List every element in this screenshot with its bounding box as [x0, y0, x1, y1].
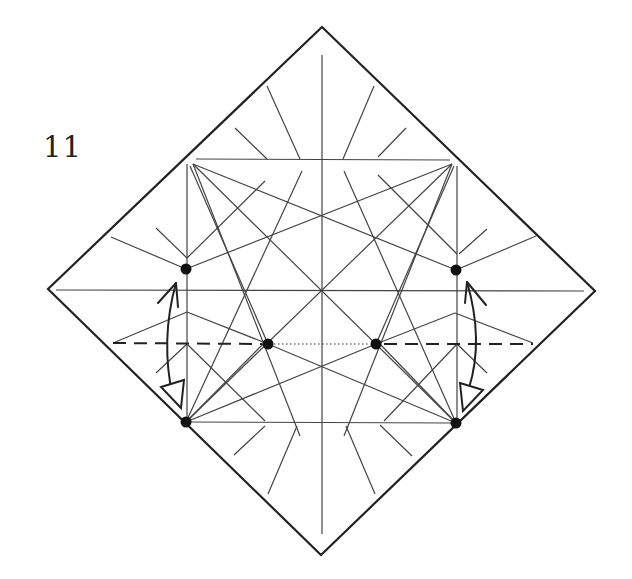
left-fold-arrow [158, 283, 184, 408]
right-arrow-curve [467, 282, 476, 388]
ll-v-1 [156, 344, 187, 373]
fan-bl-1 [186, 344, 376, 422]
bottom-radial-1 [234, 426, 265, 455]
bottom-radial-4 [380, 425, 412, 456]
horizontal-center-crease [56, 290, 584, 291]
fan-tr-1 [186, 164, 452, 269]
diagonal-tl-br [193, 164, 456, 423]
fan-br-2 [344, 171, 456, 423]
lower-right-tri-2 [455, 313, 533, 343]
fan-br-1 [268, 344, 456, 423]
valley-fold [113, 343, 533, 344]
ur-v-1 [459, 229, 487, 254]
top-radial-2 [235, 128, 267, 159]
left-arrow-curve [167, 283, 176, 398]
ul-v-1 [156, 228, 187, 258]
right-arrow-hollow-head [460, 383, 483, 411]
dot-lower-left [181, 417, 192, 428]
inner-square-bottom [188, 422, 454, 423]
fan-tr-2 [344, 164, 452, 436]
diagonal-tr-bl [186, 164, 452, 422]
lower-left-tri-1 [113, 312, 187, 343]
dot-upper-right [451, 265, 462, 276]
valley-fold-left [113, 343, 262, 344]
top-radial-3 [343, 86, 374, 159]
inner-square-top [196, 159, 450, 160]
fan-tr-3 [376, 166, 454, 344]
fan-br-3 [378, 342, 456, 423]
origami-diagram [0, 0, 632, 579]
top-radial-1 [267, 86, 300, 159]
lr-v-1 [457, 344, 487, 373]
dot-mid-left [263, 339, 274, 350]
bottom-radial-3 [346, 426, 375, 494]
right-fold-arrow [460, 282, 486, 411]
bottom-radial-2 [268, 426, 297, 494]
crease-pattern [56, 55, 584, 534]
dot-mid-right [371, 339, 382, 350]
fan-bl-2 [186, 171, 302, 422]
dot-upper-left [181, 264, 192, 275]
upper-left-outer [111, 237, 186, 269]
dot-lower-right [451, 418, 462, 429]
lr-v-2 [384, 344, 457, 421]
reference-dots [181, 264, 462, 429]
top-radial-4 [378, 128, 406, 157]
fan-tl-2 [193, 164, 300, 436]
upper-right-outer [456, 236, 536, 270]
